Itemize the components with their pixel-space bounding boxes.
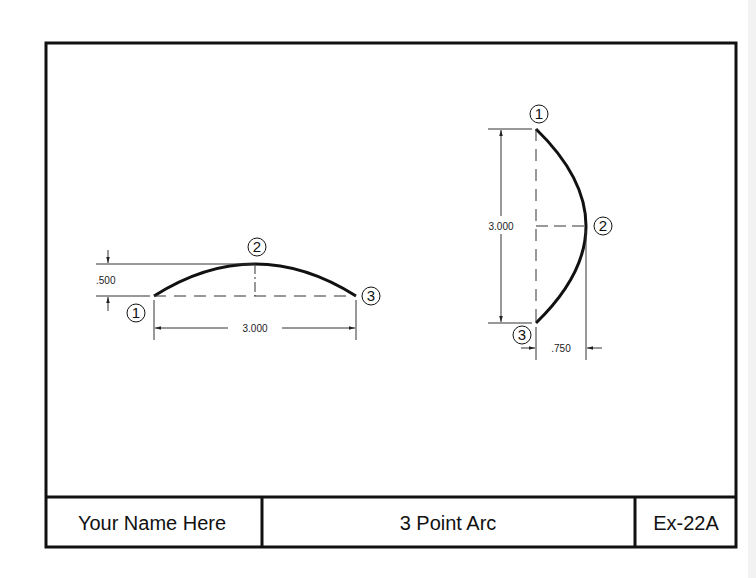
drawing-title: 3 Point Arc xyxy=(400,512,497,534)
point-label-1: 1 xyxy=(132,304,140,321)
point-label-3: 3 xyxy=(367,287,375,304)
chord-dimension: 3.000 xyxy=(488,221,513,232)
chord-dimension: 3.000 xyxy=(242,323,267,334)
point-label-2: 2 xyxy=(599,217,607,234)
name-field: Your Name Here xyxy=(78,512,226,534)
point-label-3: 3 xyxy=(518,326,526,343)
point-label-1: 1 xyxy=(535,105,543,122)
right-arc-drawing: 3.000 .750 1 2 3 xyxy=(488,105,612,360)
drawing-border xyxy=(46,43,736,547)
depth-dimension: .750 xyxy=(551,343,571,354)
height-dimension: .500 xyxy=(96,275,116,286)
left-arc-drawing: .500 3.000 1 2 3 xyxy=(96,238,380,340)
point-label-2: 2 xyxy=(253,238,261,255)
sheet-number: Ex-22A xyxy=(653,512,719,534)
drawing-sheet: Your Name Here 3 Point Arc Ex-22A .500 3… xyxy=(0,0,756,578)
